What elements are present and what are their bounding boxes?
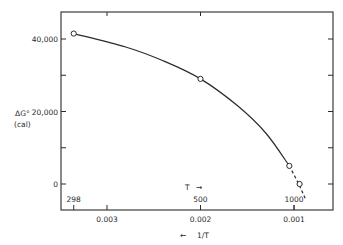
x-tick-label: 0.001 [283,215,305,224]
y-axis-label: ΔG° [15,109,30,118]
secondary-x-axis-label: T [184,183,190,192]
y-axis-unit: (cal) [14,120,31,129]
secondary-x-tick-label: 298 [67,195,82,204]
data-point-marker [71,31,76,36]
data-curves [74,34,306,199]
plot-frame [61,12,333,210]
data-markers [71,31,302,187]
data-point-marker [198,76,203,81]
data-point-marker [287,163,292,168]
secondary-x-axis-arrow: → [196,183,202,192]
y-tick-label: 0 [53,180,58,189]
x-axis-label: 1/T [197,231,209,240]
y-tick-label: 40,000 [32,35,58,44]
chart: 020,00040,000 0.0030.0020.0012985001000 … [0,0,343,245]
plot-border [61,12,333,210]
x-axis-arrow: ← [180,231,186,240]
secondary-x-tick-label: 500 [193,195,208,204]
data-point-marker [297,181,302,186]
y-tick-label: 20,000 [32,108,58,117]
solid-curve [74,34,290,166]
x-tick-label: 0.002 [190,215,212,224]
secondary-x-tick-label: 1000 [284,195,303,204]
x-tick-label: 0.003 [96,215,118,224]
